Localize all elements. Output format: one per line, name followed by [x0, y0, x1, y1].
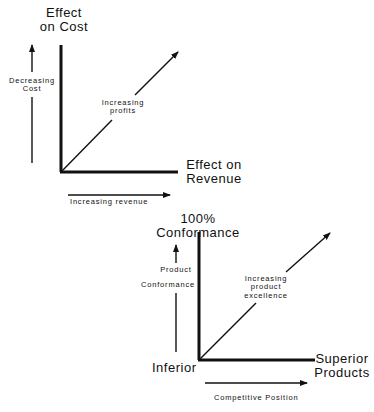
bottom-diagram: [176, 232, 330, 383]
bottom-origin-label: Inferior: [152, 361, 196, 375]
top-left-arrow-label: Decreasing Cost: [4, 77, 60, 94]
top-diagram: [32, 45, 178, 195]
bottom-y-axis-title-line1: 100%: [156, 212, 240, 226]
top-diagonal-arrow-lower: [61, 120, 112, 172]
top-x-axis-title-line2: Revenue: [182, 172, 246, 186]
bottom-diagonal-label-line3: excellence: [226, 292, 306, 300]
top-y-axis-title-line1: Effect: [36, 6, 92, 20]
top-left-arrow-label-line2: Cost: [4, 85, 60, 93]
top-diagonal-arrow-upper: [135, 52, 178, 95]
top-x-axis-title: Effect on Revenue: [182, 158, 246, 187]
bottom-x-axis-title-line1: Superior: [310, 352, 374, 366]
top-y-axis-title: Effect on Cost: [36, 6, 92, 35]
bottom-diagonal-label: Increasing product excellence: [226, 275, 306, 300]
bottom-bottom-arrow-label: Competitive Position: [214, 394, 298, 402]
top-x-axis-title-line1: Effect on: [182, 158, 246, 172]
top-bottom-arrow-label: Increasing revenue: [70, 198, 148, 206]
bottom-diagonal-arrow-lower: [199, 303, 256, 360]
bottom-left-arrow-label-line1: Product: [146, 266, 206, 274]
top-y-axis-title-line2: on Cost: [36, 20, 92, 34]
bottom-left-arrow-label-line2: Conformance: [138, 281, 198, 289]
bottom-x-axis-title-line2: Products: [310, 366, 374, 380]
bottom-y-axis-title-line2: Conformance: [156, 226, 240, 240]
top-diagonal-label-line2: profits: [94, 107, 152, 115]
bottom-y-axis-title: 100% Conformance: [156, 212, 240, 241]
bottom-diagonal-arrow-upper: [286, 233, 330, 272]
top-diagonal-label: Increasing profits: [94, 99, 152, 116]
bottom-x-axis-title: Superior Products: [310, 352, 374, 381]
